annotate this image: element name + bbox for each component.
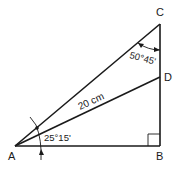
arrow-head-c-left	[138, 43, 144, 48]
arrow-head-a-upper	[35, 126, 39, 130]
arc-extension-a	[30, 117, 36, 125]
angle-label-a: 25°15'	[44, 132, 71, 143]
point-label-c: C	[156, 6, 164, 18]
arrow-head-a-lower	[39, 149, 44, 155]
triangle-diagram: C D A B 20 cm 25°15' 50°45'	[0, 0, 180, 178]
point-label-a: A	[8, 150, 16, 162]
angle-label-c: 50°45'	[128, 49, 157, 67]
arrow-head-c-right	[154, 47, 160, 52]
length-label-ad: 20 cm	[76, 90, 105, 111]
right-angle-marker	[148, 134, 160, 146]
point-label-b: B	[156, 150, 163, 162]
point-label-d: D	[164, 71, 172, 83]
segment-ad	[15, 77, 160, 146]
